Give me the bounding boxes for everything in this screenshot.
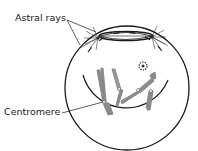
spindle: [99, 32, 153, 41]
astral-leader-2: [67, 20, 80, 45]
astral-leader-1: [67, 20, 96, 32]
nucleolus: [139, 62, 147, 70]
astral-rays-right: [152, 26, 168, 49]
cell-membrane: [65, 26, 189, 150]
centromeres: [103, 88, 153, 104]
nuclear-envelope: [83, 75, 168, 108]
centromere-label: Centromere: [4, 106, 60, 117]
astral-rays-label: Astral rays: [15, 12, 66, 23]
